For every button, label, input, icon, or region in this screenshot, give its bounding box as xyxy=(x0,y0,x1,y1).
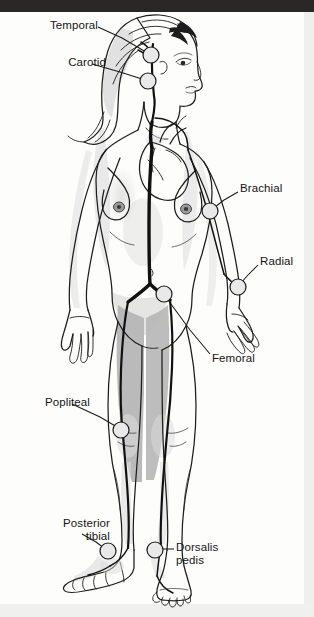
label-carotid: Carotid xyxy=(34,56,106,69)
pulse-point-popliteal[interactable] xyxy=(113,422,129,438)
pulse-point-posterior-tibial[interactable] xyxy=(100,543,116,559)
pulse-point-dorsalis-pedis[interactable] xyxy=(147,542,163,558)
label-femoral: Femoral xyxy=(212,352,255,365)
label-temporal: Temporal xyxy=(26,19,98,32)
label-popliteal: Popliteal xyxy=(18,396,90,409)
diagram-page: .o {fill:none;stroke:#1d1d1d;stroke-widt… xyxy=(0,0,314,617)
pulse-point-brachial[interactable] xyxy=(202,203,218,219)
leader-line-radial xyxy=(241,265,258,283)
pulse-point-radial[interactable] xyxy=(230,279,246,295)
pulse-point-temporal[interactable] xyxy=(143,47,159,63)
head-and-hair xyxy=(68,15,202,145)
pulse-point-carotid[interactable] xyxy=(140,73,156,89)
label-posterior-tibial: Posterior tibial xyxy=(38,517,110,543)
label-dorsalis-pedis: Dorsalis pedis xyxy=(176,541,218,567)
label-brachial: Brachial xyxy=(240,182,282,195)
label-radial: Radial xyxy=(260,255,293,268)
pulse-point-femoral[interactable] xyxy=(156,286,172,302)
leader-line-femoral xyxy=(168,300,210,354)
